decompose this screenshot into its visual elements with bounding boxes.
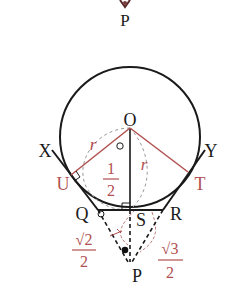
label-s: S: [136, 210, 146, 230]
radius-ou: [71, 128, 130, 175]
label-p-top: P: [120, 11, 129, 30]
label-o: O: [124, 110, 137, 130]
label-q: Q: [76, 204, 89, 224]
svg-text:2: 2: [107, 182, 115, 199]
svg-text:√3: √3: [162, 240, 179, 257]
label-t: T: [195, 174, 206, 194]
label-u: U: [57, 174, 70, 194]
angle-mark-p: [122, 247, 129, 254]
fraction-sqrt3-over-2: √3 2: [158, 240, 183, 281]
label-y: Y: [205, 141, 218, 161]
label-r: R: [170, 204, 182, 224]
arrow-fragment-icon: [120, 0, 130, 7]
arrow-mark-icon: [110, 229, 122, 236]
angle-mark-o: [117, 143, 123, 149]
svg-text:√2: √2: [76, 231, 93, 248]
fraction-half: 1 2: [103, 160, 119, 199]
label-r-left: r: [90, 135, 97, 154]
svg-text:2: 2: [80, 253, 88, 270]
radius-ot: [130, 128, 188, 172]
label-r-right: r: [141, 155, 148, 174]
svg-text:1: 1: [107, 160, 115, 177]
label-p: P: [132, 266, 142, 286]
geometry-diagram: P O X Y U T Q S R P r r 1 2 √2: [0, 0, 237, 289]
angle-mark-q: [98, 211, 104, 217]
segment-qp: [98, 210, 128, 262]
fraction-sqrt2-over-2: √2 2: [72, 231, 96, 270]
label-x: X: [39, 141, 52, 161]
aux-arc-red: [121, 210, 135, 245]
svg-text:2: 2: [166, 264, 174, 281]
